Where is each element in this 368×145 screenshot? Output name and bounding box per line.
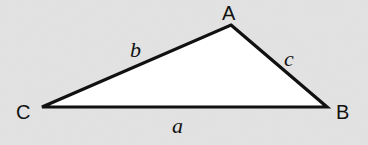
triangle-diagram: A B C a b c: [0, 0, 368, 145]
side-label-c: c: [284, 46, 294, 71]
side-label-b: b: [130, 37, 141, 62]
side-label-a: a: [172, 113, 183, 138]
vertex-label-a: A: [222, 2, 236, 24]
vertex-label-c: C: [16, 101, 30, 123]
triangle-svg: A B C a b c: [0, 0, 368, 145]
vertex-label-b: B: [336, 101, 349, 123]
